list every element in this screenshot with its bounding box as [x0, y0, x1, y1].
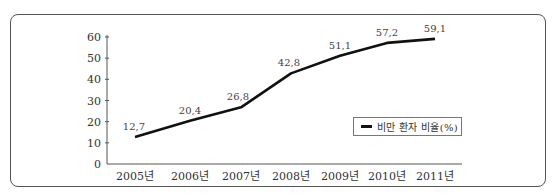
data-point-label: 26,8 — [227, 91, 249, 102]
legend-line-swatch-icon — [361, 125, 372, 128]
y-tick-label: 0 — [94, 158, 101, 171]
x-tick-label: 2006년 — [171, 170, 209, 183]
y-tick-label: 30 — [87, 95, 101, 108]
x-axis: 2005년2006년2007년2008년2009년2010년2011년 — [107, 164, 462, 183]
x-tick-label: 2011년 — [416, 170, 454, 183]
x-tick-label: 2010년 — [368, 170, 406, 183]
y-tick-label: 40 — [87, 73, 101, 86]
data-point-label: 51,1 — [329, 40, 351, 51]
x-tick-label: 2008년 — [272, 170, 310, 183]
y-axis: 0102030405060 — [87, 31, 109, 171]
data-point-label: 57,2 — [376, 27, 398, 38]
legend-label: 비만 환자 비율(%) — [377, 119, 458, 134]
x-tick-label: 2009년 — [321, 170, 359, 183]
x-tick-label: 2005년 — [116, 170, 154, 183]
data-point-label: 42,8 — [278, 57, 300, 68]
y-tick-label: 50 — [87, 52, 101, 65]
data-point-label: 20,4 — [179, 105, 201, 116]
y-tick-label: 20 — [87, 116, 101, 129]
data-point-label: 12,7 — [123, 121, 145, 132]
x-tick-label: 2007년 — [222, 170, 260, 183]
line-chart: 0102030405060 2005년2006년2007년2008년2009년2… — [0, 0, 554, 195]
y-tick-label: 60 — [87, 31, 101, 44]
y-tick-label: 10 — [87, 137, 101, 150]
data-point-label: 59,1 — [424, 23, 446, 34]
legend: 비만 환자 비율(%) — [353, 117, 462, 136]
